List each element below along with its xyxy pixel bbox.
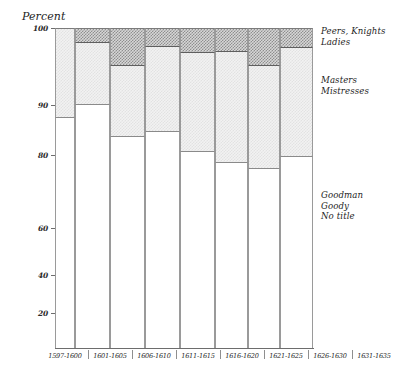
x-axis-label-1597-1600: 1597-1600	[44, 352, 86, 360]
bar-1611-1615	[145, 28, 180, 348]
segment-goodman-goody	[55, 118, 75, 348]
segment-goodman-goody	[180, 152, 215, 348]
bar-1606-1610	[110, 28, 145, 348]
segment-goodman-goody	[280, 157, 313, 348]
bar-1626-1630	[248, 28, 280, 348]
legend-label-mistresses: Mistresses	[321, 86, 369, 97]
legend-label-goodman: Goodman	[321, 190, 363, 201]
y-tick-label-90: 90	[22, 101, 48, 110]
x-axis-line	[55, 348, 314, 349]
segment-masters-mistresses	[110, 66, 145, 137]
segment-masters-mistresses	[280, 48, 313, 157]
segment-masters-mistresses	[55, 28, 75, 118]
segment-masters-mistresses	[145, 47, 180, 132]
segment-peers-knights-ladies	[145, 28, 180, 47]
segment-masters-mistresses	[215, 52, 248, 163]
x-axis-label-1606-1610: 1606-1610	[133, 352, 175, 360]
segment-goodman-goody	[110, 137, 145, 348]
segment-peers-knights-ladies	[180, 28, 215, 53]
y-tick-label-60: 60	[22, 224, 48, 233]
bar-1601-1605	[75, 28, 110, 348]
x-axis-label-1631-1635: 1631-1635	[353, 352, 395, 360]
x-axis-label-1616-1620: 1616-1620	[221, 352, 263, 360]
bar-1597-1600	[55, 28, 75, 348]
segment-goodman-goody	[145, 132, 180, 348]
legend-label-no-title: No title	[321, 211, 363, 222]
x-axis-label-1621-1625: 1621-1625	[265, 352, 307, 360]
y-tick-label-20: 20	[22, 309, 48, 318]
segment-goodman-goody	[75, 105, 110, 348]
segment-masters-mistresses	[180, 53, 215, 152]
segment-masters-mistresses	[248, 66, 280, 169]
bar-1621-1625	[215, 28, 248, 348]
legend-masters-mistresses: Masters Mistresses	[321, 75, 369, 96]
segment-peers-knights-ladies	[110, 28, 145, 66]
legend-label-masters: Masters	[321, 75, 369, 86]
x-axis-label-1626-1630: 1626-1630	[309, 352, 351, 360]
legend-label-ladies: Ladies	[321, 37, 386, 48]
x-axis-label-1601-1605: 1601-1605	[89, 352, 131, 360]
legend-goodman-goody-no-title: Goodman Goody No title	[321, 190, 363, 222]
legend-label-peers-knights: Peers, Knights	[321, 26, 386, 37]
legend-peers-knights-ladies: Peers, Knights Ladies	[321, 26, 386, 47]
segment-peers-knights-ladies	[280, 28, 313, 48]
segment-peers-knights-ladies	[248, 28, 280, 66]
segment-masters-mistresses	[75, 43, 110, 105]
chart-container: Percent 100 90 80 60 40 20	[0, 0, 395, 377]
segment-goodman-goody	[215, 163, 248, 348]
bar-1616-1620	[180, 28, 215, 348]
segment-peers-knights-ladies	[75, 28, 110, 43]
bar-1631-1635	[280, 28, 313, 348]
legend-label-goody: Goody	[321, 201, 363, 212]
y-tick-label-40: 40	[22, 271, 48, 280]
y-axis-title: Percent	[22, 10, 66, 23]
y-tick-label-100: 100	[22, 24, 48, 33]
x-axis-label-1611-1615: 1611-1615	[177, 352, 219, 360]
y-tick-label-80: 80	[22, 151, 48, 160]
segment-peers-knights-ladies	[215, 28, 248, 52]
segment-goodman-goody	[248, 169, 280, 348]
